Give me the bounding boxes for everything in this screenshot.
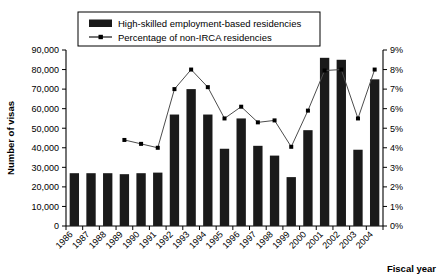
line-point-2001 <box>323 69 327 73</box>
line-point-1996 <box>239 105 243 109</box>
legend-label-1: Percentage of non-IRCA residencies <box>118 32 272 43</box>
line-point-1999 <box>289 145 293 149</box>
line-point-1991 <box>156 146 160 150</box>
line-point-1994 <box>206 85 210 89</box>
legend-label-0: High-skilled employment-based residencie… <box>118 18 301 29</box>
bar-2000 <box>303 130 312 226</box>
line-point-1993 <box>189 68 193 72</box>
y2-axis-tick-label: 2% <box>390 182 403 192</box>
y2-axis-tick-label: 1% <box>390 202 403 212</box>
y-axis-tick-label: 80,000 <box>31 65 59 75</box>
y2-axis-tick-label: 5% <box>390 124 403 134</box>
x-axis-tick-label: 1989 <box>104 229 125 250</box>
y-axis-title: Number of visas <box>5 101 16 175</box>
y2-axis-tick-label: 7% <box>390 84 403 94</box>
y-axis-tick-label: 20,000 <box>31 182 59 192</box>
x-axis-tick-label: 2003 <box>337 229 358 250</box>
line-point-2003 <box>356 116 360 120</box>
y2-axis-tick-label: 6% <box>390 104 403 114</box>
y2-axis-tick-label: 9% <box>390 45 403 55</box>
bar-1998 <box>270 156 279 226</box>
x-axis-tick-label: 1998 <box>254 229 275 250</box>
bar-1999 <box>287 177 296 226</box>
legend-point-icon <box>99 35 103 39</box>
y2-axis-tick-label: 3% <box>390 163 403 173</box>
line-point-1998 <box>273 118 277 122</box>
x-axis-tick-label: 1986 <box>54 229 75 250</box>
bar-2004 <box>370 79 379 226</box>
y-axis-tick-label: 60,000 <box>31 104 59 114</box>
y2-axis-tick-label: 8% <box>390 65 403 75</box>
bar-1991 <box>153 173 162 226</box>
y-axis-tick-label: 50,000 <box>31 124 59 134</box>
x-axis: 1986198719881989199019911992199319941995… <box>54 226 383 251</box>
y-axis-tick-label: 40,000 <box>31 143 59 153</box>
bar-1990 <box>136 173 145 226</box>
bar-1997 <box>253 146 262 226</box>
x-axis-tick-label: 1997 <box>237 229 258 250</box>
x-axis-tick-label: 2001 <box>304 229 325 250</box>
bar-2001 <box>320 58 329 226</box>
bar-1987 <box>86 173 95 226</box>
y-axis-tick-label: 10,000 <box>31 202 59 212</box>
x-axis-tick-label: 1992 <box>154 229 175 250</box>
bar-1988 <box>103 173 112 226</box>
line-point-1989 <box>122 138 126 142</box>
x-axis-tick-label: 1994 <box>187 229 208 250</box>
chart-legend: High-skilled employment-based residencie… <box>78 12 320 46</box>
bar-1986 <box>70 173 79 226</box>
x-axis-tick-label: 1988 <box>87 229 108 250</box>
bar-1993 <box>186 89 195 226</box>
x-axis-tick-label: 2000 <box>287 229 308 250</box>
bar-1992 <box>170 115 179 226</box>
y-axis-tick-label: 90,000 <box>31 45 59 55</box>
y-axis-tick-label: 70,000 <box>31 84 59 94</box>
y-axis-tick-label: 0 <box>54 221 59 231</box>
line-point-1992 <box>172 87 176 91</box>
chart-container: 010,00020,00030,00040,00050,00060,00070,… <box>0 0 440 277</box>
y-axis-left: 010,00020,00030,00040,00050,00060,00070,… <box>31 45 66 231</box>
bar-series <box>70 58 380 226</box>
line-point-2002 <box>339 68 343 72</box>
x-axis-tick-label: 1996 <box>220 229 241 250</box>
line-point-2000 <box>306 109 310 113</box>
y-axis-right: 0%1%2%3%4%5%6%7%8%9% <box>383 45 403 231</box>
bar-2002 <box>337 60 346 226</box>
chart-svg: 010,00020,00030,00040,00050,00060,00070,… <box>0 0 440 277</box>
line-point-1997 <box>256 120 260 124</box>
x-axis-tick-label: 2004 <box>354 229 375 250</box>
x-axis-tick-label: 2002 <box>320 229 341 250</box>
x-axis-tick-label: 1987 <box>70 229 91 250</box>
x-axis-title: Fiscal year <box>387 263 436 274</box>
bar-1995 <box>220 149 229 226</box>
line-point-2004 <box>373 68 377 72</box>
x-axis-tick-label: 1991 <box>137 229 158 250</box>
bar-1989 <box>120 174 129 226</box>
line-point-1995 <box>223 116 227 120</box>
bar-1996 <box>237 118 246 226</box>
y2-axis-tick-label: 4% <box>390 143 403 153</box>
bar-1994 <box>203 115 212 226</box>
y-axis-tick-label: 30,000 <box>31 163 59 173</box>
x-axis-tick-label: 1995 <box>204 229 225 250</box>
x-axis-tick-label: 1993 <box>170 229 191 250</box>
line-point-1990 <box>139 142 143 146</box>
legend-bar-swatch-icon <box>89 20 112 28</box>
x-axis-tick-label: 1990 <box>120 229 141 250</box>
x-axis-tick-label: 1999 <box>270 229 291 250</box>
bar-2003 <box>353 150 362 226</box>
y2-axis-tick-label: 0% <box>390 221 403 231</box>
